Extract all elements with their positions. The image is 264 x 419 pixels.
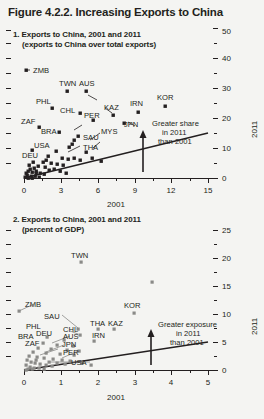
point-label-twn: TWN [71,251,88,260]
panel-1-xtick-15: 15 [204,186,213,195]
panel-2-ytick-25: 25 [222,226,231,235]
panel-2-ytick-10: 10 [222,310,231,319]
panel-1-ytick-30: 30 [222,84,231,93]
data-point [79,334,82,337]
point-label-phl: PHL [36,97,51,106]
point-label-aus: AUS [79,79,95,88]
data-point [56,344,59,347]
panel-1-ytick-10: 10 [222,144,231,153]
point-label-sau: SAU [44,312,60,321]
data-point [164,105,167,108]
panel-2-y-axis [213,230,218,370]
point-label-irn: IRN [130,99,143,108]
data-point [77,135,80,138]
point-label-chl: CHL [60,106,75,115]
panel-1-x-ticks [24,178,208,183]
data-point [38,367,41,370]
panel-1-ytick-20: 20 [222,114,231,123]
point-label-usa: USA [34,141,51,150]
data-point [34,175,37,178]
data-point [56,362,59,365]
panel-1-ylabel: 2011 [250,121,259,138]
figure-container: Figure 4.2.2. Increasing Exports to Chin… [0,0,264,419]
data-point [67,158,70,161]
data-point [28,355,31,358]
data-point [58,131,61,134]
data-point [27,177,30,180]
panel-1-annotation-arrow [140,130,147,172]
data-point [34,362,37,365]
panel-2-x-ticks [24,370,208,375]
panel-2-annotation-line3: than 2001 [170,338,204,347]
panel-2-left-ticks [6,230,11,356]
panel-1-left-ticks [6,30,11,163]
panel-2-points [18,261,154,372]
data-point [37,165,40,168]
data-point [66,90,69,93]
data-point [47,155,50,158]
panel-2-svg: 0 5 10 15 20 25 [0,215,264,415]
point-label-bra: BRA [41,127,58,136]
panel-1: 1. Exports to China, 2001 and 2011 (expo… [0,30,264,210]
data-point [44,166,47,169]
point-label-tha: THA [83,143,99,152]
panel-2-ytick-15: 15 [222,282,231,291]
data-point [61,157,64,160]
data-point [43,357,46,360]
data-point [39,172,42,175]
data-point [31,368,34,371]
data-point [62,164,65,167]
panel-1-annotation-line1: Greater share [152,119,199,128]
point-label-per: PER [63,348,79,357]
data-point [50,348,53,351]
data-point [31,177,34,180]
data-point [43,368,46,371]
data-point [25,369,28,372]
data-point [151,281,154,284]
data-point [71,143,74,146]
data-point [45,364,48,367]
panel-2-ylabel: 2011 [250,318,259,335]
panel-1-xtick-9: 9 [133,186,138,195]
point-label-deu: DEU [36,329,52,338]
point-label-usa: USA [71,358,88,367]
point-label-zaf: ZAF [25,339,40,348]
figure-title: Figure 4.2.2. Increasing Exports to Chin… [8,6,258,19]
panel-1-annotation-line2: in 2011 [162,128,186,137]
data-point [51,365,54,368]
point-label-zmb: ZMB [33,66,49,75]
data-point [80,261,83,264]
panel-1-points [24,69,167,180]
panel-2-annotation-line2: in 2011 [176,329,200,338]
data-point [42,161,45,164]
point-label-mys: MYS [101,127,117,136]
data-point [35,172,38,175]
data-point [55,150,58,153]
data-point [25,364,28,367]
data-point [45,159,48,162]
data-point [36,356,39,359]
data-point [91,157,94,160]
panel-2-xtick-5: 5 [206,378,211,387]
data-point [79,159,82,162]
point-label-irn: IRN [92,331,105,340]
panel-1-xtick-12: 12 [167,186,176,195]
data-point [133,312,136,315]
panel-1-labels: ZMB TWN AUS PHL CHL KAZ IRN KOR PER JPN … [21,66,174,160]
panel-1-annotation-line3: than 2001 [158,137,192,146]
point-label-kaz: KAZ [104,103,119,112]
data-point [31,171,34,174]
data-point [43,173,46,176]
point-label-jpn: JPN [124,120,138,129]
data-point [52,358,55,361]
panel-1-xlabel: 2001 [107,200,125,209]
data-point [35,359,38,362]
panel-1-xtick-0: 0 [22,186,27,195]
data-point [56,163,59,166]
point-label-zaf: ZAF [21,117,36,126]
data-point [100,160,103,163]
data-point [30,361,33,364]
panel-1-ytick-40: 40 [222,54,231,63]
data-point [65,172,68,175]
panel-2-annotation-line1: Greater exposure [158,320,217,329]
